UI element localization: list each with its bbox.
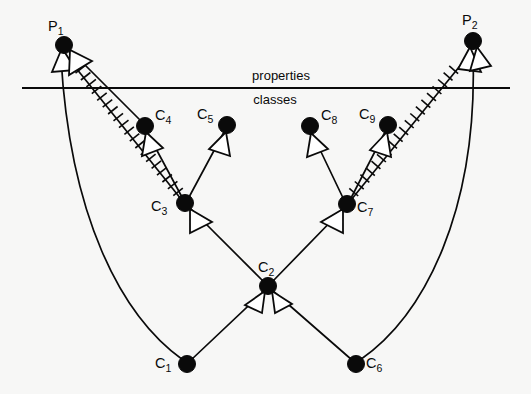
node-c9[interactable] xyxy=(380,117,397,134)
node-c3[interactable] xyxy=(177,195,194,212)
band-label-classes: classes xyxy=(253,92,297,107)
node-label-c2-base: C xyxy=(258,259,268,275)
node-label-c8: C8 xyxy=(321,107,337,126)
node-p2[interactable] xyxy=(465,33,482,50)
node-label-p2-sub: 2 xyxy=(472,19,478,31)
arrowhead-c6-to-c2 xyxy=(272,291,292,313)
arrowhead-into-c3 xyxy=(190,209,212,233)
node-label-c6: C6 xyxy=(366,355,382,374)
node-label-p1-base: P xyxy=(48,18,58,34)
node-c1[interactable] xyxy=(179,356,196,373)
node-label-c6-base: C xyxy=(366,355,376,371)
node-label-c5-sub: 5 xyxy=(207,113,213,125)
node-label-c1-base: C xyxy=(155,355,165,371)
node-layer xyxy=(56,33,482,373)
edge-c6-to-p2 xyxy=(360,54,473,360)
node-label-p1: P1 xyxy=(48,18,64,37)
node-label-c7: C7 xyxy=(357,199,373,218)
node-label-c7-sub: 7 xyxy=(367,206,373,218)
node-label-c2: C2 xyxy=(258,259,274,278)
node-label-c5-base: C xyxy=(197,106,207,122)
node-label-p2: P2 xyxy=(462,12,478,31)
node-label-c3-sub: 3 xyxy=(161,205,167,217)
node-label-c4-base: C xyxy=(155,107,165,123)
node-c2[interactable] xyxy=(260,278,277,295)
node-label-c9: C9 xyxy=(359,106,375,125)
node-label-c1: C1 xyxy=(155,355,171,374)
arrowhead-c6-to-p2 xyxy=(470,47,491,71)
arrowhead-c3-to-p1 xyxy=(69,50,92,75)
node-c5[interactable] xyxy=(219,117,236,134)
node-label-c9-base: C xyxy=(359,106,369,122)
arrowhead-into-c4 xyxy=(142,132,163,156)
node-label-c3-base: C xyxy=(151,198,161,214)
edge-c3-to-p1-spine xyxy=(68,58,181,199)
node-label-c5: C5 xyxy=(197,106,213,125)
node-p1[interactable] xyxy=(56,37,73,54)
node-label-p1-sub: 1 xyxy=(58,25,64,37)
diagram-canvas: P1 P2 C1 C2 C3 C4 C5 C6 xyxy=(0,0,531,394)
node-c4[interactable] xyxy=(137,118,154,135)
edge-c3-to-p1-hatching xyxy=(76,66,183,196)
node-label-c7-base: C xyxy=(357,199,367,215)
node-label-c6-sub: 6 xyxy=(376,362,382,374)
arrowhead-c1-to-c2 xyxy=(245,291,265,313)
node-label-layer: P1 P2 C1 C2 C3 C4 C5 C6 xyxy=(48,12,478,374)
node-label-c1-sub: 1 xyxy=(165,362,171,374)
lattice-diagram-svg: P1 P2 C1 C2 C3 C4 C5 C6 xyxy=(0,0,531,394)
node-label-c4: C4 xyxy=(155,107,171,126)
band-label-properties: properties xyxy=(252,68,310,83)
node-label-c2-sub: 2 xyxy=(268,266,274,278)
node-label-c4-sub: 4 xyxy=(165,114,171,126)
node-c8[interactable] xyxy=(302,118,319,135)
node-label-c9-sub: 9 xyxy=(369,113,375,125)
edge-c7-to-p2-hatching xyxy=(349,66,458,196)
node-label-c8-base: C xyxy=(321,107,331,123)
node-label-p2-base: P xyxy=(462,12,472,28)
node-label-c3: C3 xyxy=(151,198,167,217)
node-c6[interactable] xyxy=(348,356,365,373)
arrowhead-into-c8 xyxy=(307,133,328,157)
node-c7[interactable] xyxy=(339,196,356,213)
node-label-c8-sub: 8 xyxy=(331,114,337,126)
